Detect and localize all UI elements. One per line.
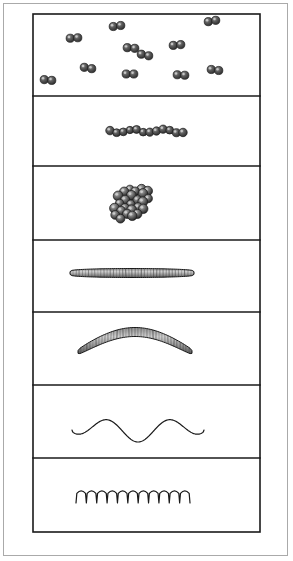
panel-region-streptococci bbox=[33, 96, 260, 166]
figure-plate bbox=[0, 0, 293, 561]
panel-region-bacillus bbox=[33, 240, 260, 312]
panel-region-staphylococci bbox=[33, 166, 260, 240]
panel-region-vibrio bbox=[33, 312, 260, 385]
panel-region-spirochete bbox=[33, 458, 260, 532]
panel-region-diplococci bbox=[33, 14, 260, 96]
panel-region-spirillum bbox=[33, 385, 260, 458]
